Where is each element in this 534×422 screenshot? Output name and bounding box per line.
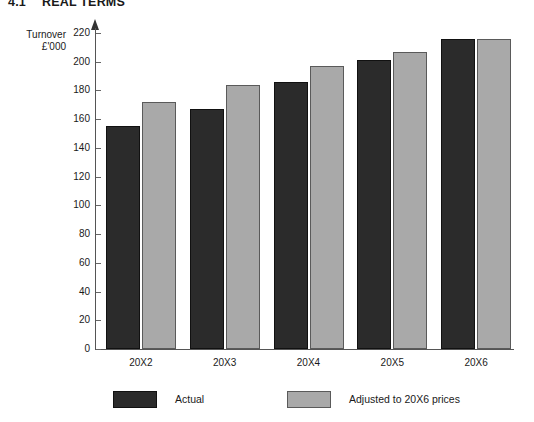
bar-20x6-adjusted xyxy=(477,39,511,349)
y-axis-tick xyxy=(96,205,101,206)
y-axis-tick-label: 120 xyxy=(52,172,90,182)
y-axis-tick xyxy=(96,62,101,63)
bar-20x3-adjusted xyxy=(226,85,260,349)
y-axis-line xyxy=(95,28,96,350)
y-axis-tick-label: 180 xyxy=(52,85,90,95)
y-axis-tick-label: 0 xyxy=(52,344,90,354)
y-axis-tick-label: 60 xyxy=(52,258,90,268)
legend-label: Actual xyxy=(175,393,204,405)
x-axis-line xyxy=(95,349,514,350)
bar-20x5-adjusted xyxy=(393,52,427,349)
legend-item-actual: Actual xyxy=(113,389,204,409)
chart-legend: ActualAdjusted to 20X6 prices xyxy=(0,389,534,413)
y-axis-tick xyxy=(96,119,101,120)
y-axis-tick xyxy=(96,90,101,91)
y-axis-tick xyxy=(96,320,101,321)
y-axis-tick xyxy=(96,148,101,149)
y-axis-tick-label: 100 xyxy=(52,200,90,210)
x-axis-label-20x5: 20X5 xyxy=(345,357,439,368)
y-axis-tick-label: 200 xyxy=(52,57,90,67)
y-axis-tick xyxy=(96,177,101,178)
y-axis-tick-label: 40 xyxy=(52,287,90,297)
bar-chart-plot-area: 020406080100120140160180200220 20X220X32… xyxy=(0,0,534,422)
y-axis-tick xyxy=(96,33,101,34)
y-axis-tick-label: 20 xyxy=(52,315,90,325)
legend-item-adjusted: Adjusted to 20X6 prices xyxy=(287,389,460,409)
x-axis-label-20x6: 20X6 xyxy=(429,357,523,368)
y-axis-tick-label: 140 xyxy=(52,143,90,153)
bar-20x6-actual xyxy=(441,39,475,349)
bar-20x2-actual xyxy=(106,126,140,349)
y-axis-tick xyxy=(96,234,101,235)
y-axis-tick xyxy=(96,349,101,350)
bar-20x4-adjusted xyxy=(310,66,344,349)
x-axis-label-20x2: 20X2 xyxy=(94,357,188,368)
x-axis-label-20x4: 20X4 xyxy=(262,357,356,368)
bar-20x5-actual xyxy=(357,60,391,349)
bar-20x2-adjusted xyxy=(142,102,176,349)
adjusted-swatch xyxy=(287,391,331,408)
y-axis-tick-label: 80 xyxy=(52,229,90,239)
actual-swatch xyxy=(113,391,157,408)
y-axis-tick xyxy=(96,292,101,293)
bar-20x3-actual xyxy=(190,109,224,349)
bar-20x4-actual xyxy=(274,82,308,349)
y-axis-tick-label: 160 xyxy=(52,114,90,124)
y-axis-tick-label: 220 xyxy=(52,28,90,38)
legend-label: Adjusted to 20X6 prices xyxy=(349,393,460,405)
y-axis-tick xyxy=(96,263,101,264)
x-axis-label-20x3: 20X3 xyxy=(178,357,272,368)
